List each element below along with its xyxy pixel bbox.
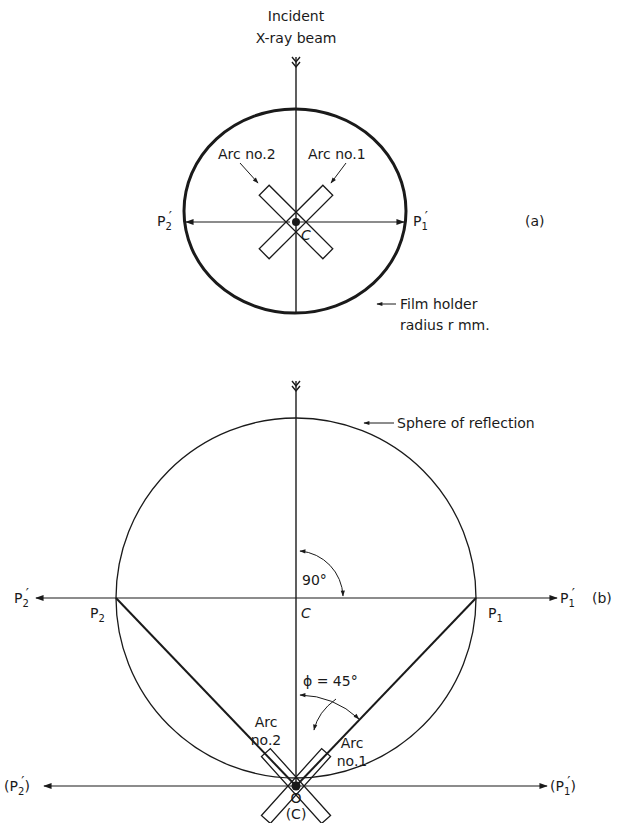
center-label-a: C	[301, 227, 311, 243]
arc-no1-label-b-line1: Arc	[341, 735, 364, 751]
figure-b-tag: (b)	[592, 590, 612, 606]
p2-prime-label-a: P2′	[157, 208, 172, 232]
diffraction-diagram: Incident X-ray beam C Arc no.2 Arc no.1 …	[0, 0, 627, 823]
phi-angle-label: ϕ = 45°	[303, 673, 358, 689]
film-holder-label-line2: radius r mm.	[400, 317, 490, 333]
arc-no2-pointer	[240, 163, 258, 183]
angle-90-label: 90°	[302, 572, 327, 588]
phi-pointer	[314, 699, 336, 730]
arc-no1-pointer	[331, 163, 346, 183]
arc-no1-label-b-line2: no.1	[337, 753, 368, 769]
arc-no1-label-a: Arc no.1	[308, 146, 366, 162]
p1-prime-label-b: P1′	[560, 585, 575, 609]
arc-no2-label-a: Arc no.2	[218, 146, 276, 162]
arc-no2-label-b-line1: Arc	[255, 714, 278, 730]
film-holder-label-line1: Film holder	[400, 296, 478, 312]
center-label-b: C	[301, 605, 311, 621]
p2-prime-label-b: P2′	[14, 585, 29, 609]
p1-label: P1	[488, 605, 503, 624]
phi-angle-arc	[300, 695, 359, 719]
figure-a: Incident X-ray beam C Arc no.2 Arc no.1 …	[157, 8, 545, 333]
p2-label: P2	[90, 605, 105, 624]
beam-label-line1: Incident	[268, 8, 325, 24]
crystal-center-dot	[292, 218, 300, 226]
arc-no2-label-b-line2: no.2	[251, 732, 282, 748]
figure-a-tag: (a)	[525, 213, 545, 229]
origin-center-label: (C)	[286, 806, 307, 822]
p1-prime-label-a: P1′	[413, 208, 428, 232]
p1-prime-paren-label: (P1′)	[550, 773, 576, 797]
beam-label-line2: X-ray beam	[256, 30, 337, 46]
sphere-label: Sphere of reflection	[397, 415, 535, 431]
origin-label: O	[290, 790, 301, 806]
figure-b: Sphere of reflection 90° P2′ P1′ (b) P2 …	[4, 381, 612, 823]
p2-prime-paren-label: (P2′)	[4, 773, 30, 797]
